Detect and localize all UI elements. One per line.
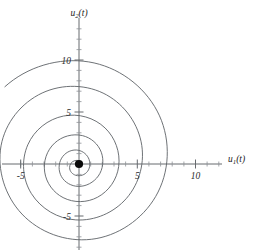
x-tick-label-10: 10 [191, 171, 201, 181]
y-axis-label-tail: (t) [79, 8, 88, 19]
x-tick-label-5: 5 [135, 171, 140, 181]
plot-canvas: -5 5 10 10 5 -5 u2(t) u1(t) [0, 0, 258, 252]
x-axis-label: u1(t) [228, 154, 245, 165]
y-tick-label-10: 10 [62, 56, 72, 66]
y-tick-labels: 10 5 -5 [62, 56, 72, 222]
y-tick-label-neg5: -5 [63, 212, 71, 222]
equilibrium-point-marker [75, 160, 83, 168]
x-tick-label-neg5: -5 [17, 171, 25, 181]
axis-group [2, 18, 222, 250]
spiral-trajectory-path [0, 61, 167, 240]
y-axis-label: u2(t) [70, 8, 87, 19]
x-tick-labels: -5 5 10 [17, 171, 201, 181]
phase-portrait-figure: -5 5 10 10 5 -5 u2(t) u1(t) [0, 0, 258, 252]
x-axis-label-tail: (t) [236, 154, 245, 165]
y-tick-label-5: 5 [66, 108, 71, 118]
